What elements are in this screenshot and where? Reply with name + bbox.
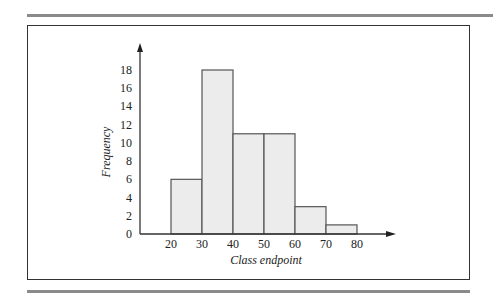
x-tick-label: 60 <box>289 237 301 251</box>
x-axis-title: Class endpoint <box>230 253 302 267</box>
y-tick-label: 2 <box>126 209 132 223</box>
x-tick-label: 70 <box>320 237 332 251</box>
y-tick-label: 8 <box>126 154 132 168</box>
y-tick-label: 6 <box>126 172 132 186</box>
histogram-bar <box>326 225 357 234</box>
bars-group <box>171 70 357 234</box>
y-axis-arrow-icon <box>137 43 143 52</box>
x-tick-label: 40 <box>227 237 239 251</box>
histogram-bar <box>295 207 326 234</box>
histogram-bar <box>202 70 233 234</box>
x-tick-label: 80 <box>351 237 363 251</box>
y-tick-label: 12 <box>120 118 132 132</box>
y-tick-label: 16 <box>120 81 132 95</box>
y-tick-label: 0 <box>126 227 132 241</box>
x-tick-labels: 20304050607080 <box>165 237 363 251</box>
x-tick-label: 30 <box>196 237 208 251</box>
histogram-bar <box>264 134 295 234</box>
y-tick-label: 18 <box>120 63 132 77</box>
histogram-bar <box>233 134 264 234</box>
y-tick-label: 10 <box>120 136 132 150</box>
y-tick-label: 14 <box>120 99 132 113</box>
x-tick-label: 50 <box>258 237 270 251</box>
y-tick-labels: 024681012141618 <box>120 63 132 241</box>
histogram-chart: 024681012141618 20304050607080 Frequency… <box>0 0 493 305</box>
x-axis-arrow-icon <box>386 231 396 237</box>
x-tick-label: 20 <box>165 237 177 251</box>
histogram-bar <box>171 179 202 234</box>
y-tick-label: 4 <box>126 191 132 205</box>
y-axis-title: Frequency <box>99 126 113 179</box>
